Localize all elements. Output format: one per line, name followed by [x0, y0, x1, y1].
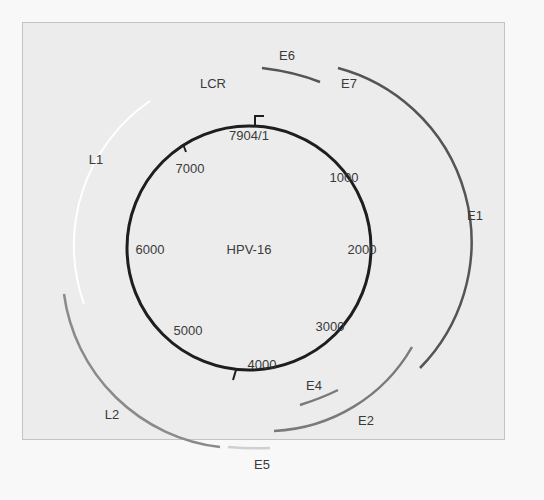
gene-label-e4: E4 — [306, 378, 322, 393]
gene-arc-e6 — [262, 68, 320, 82]
position-label-7000: 7000 — [176, 161, 205, 176]
position-label-2000: 2000 — [348, 242, 377, 257]
position-label-4000: 4000 — [248, 357, 277, 372]
origin-marker — [255, 116, 264, 126]
position-label-5000: 5000 — [174, 323, 203, 338]
gene-label-e7: E7 — [341, 76, 357, 91]
position-label-1000: 1000 — [330, 170, 359, 185]
gene-label-lcr: LCR — [200, 76, 226, 91]
genome-title: HPV-16 — [227, 242, 272, 257]
gene-label-e5: E5 — [254, 457, 270, 472]
position-label-6000: 6000 — [136, 242, 165, 257]
hpv16-genome-map: HPV-16 7904/1 1000 2000 3000 4000 5000 6… — [0, 0, 544, 500]
gene-arc-l2 — [64, 294, 220, 447]
gene-arc-e7-e1 — [338, 68, 472, 368]
gene-label-e1: E1 — [467, 208, 483, 223]
gene-arc-e5 — [228, 447, 270, 448]
gene-arc-l1 — [74, 101, 150, 304]
gene-label-e6: E6 — [279, 48, 295, 63]
tick-4000 — [233, 370, 236, 380]
gene-label-l1: L1 — [89, 152, 103, 167]
position-label-7904: 7904/1 — [229, 128, 269, 143]
gene-labels: E6 E7 E1 E2 E4 E5 L2 L1 LCR — [89, 48, 483, 472]
position-label-3000: 3000 — [316, 319, 345, 334]
gene-label-l2: L2 — [105, 407, 119, 422]
gene-label-e2: E2 — [358, 413, 374, 428]
